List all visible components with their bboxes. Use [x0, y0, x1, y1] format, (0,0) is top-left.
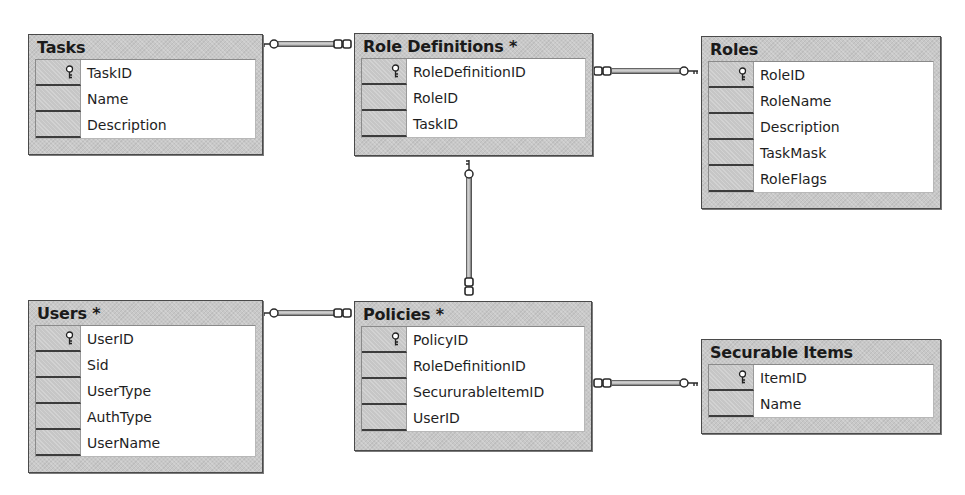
row-selector[interactable]	[709, 88, 754, 114]
column-row[interactable]: UserID	[36, 326, 255, 352]
column-name: ItemID	[754, 365, 933, 391]
column-row[interactable]: Description	[36, 112, 255, 138]
column-name: RoleID	[754, 62, 933, 88]
table-role-definitions[interactable]: Role Definitions * RoleDefinitionID Role…	[354, 33, 593, 156]
row-selector[interactable]	[709, 62, 754, 88]
column-list: ItemID Name	[708, 364, 934, 418]
table-securable-items[interactable]: Securable Items ItemID Name	[701, 339, 941, 434]
column-row[interactable]: TaskMask	[709, 140, 933, 166]
column-name: AuthType	[81, 404, 255, 430]
relationship-tasks-roledefinitions-line[interactable]	[262, 38, 354, 50]
table-title[interactable]: Role Definitions *	[361, 34, 586, 58]
column-row[interactable]: Sid	[36, 352, 255, 378]
table-title[interactable]: Policies *	[361, 302, 585, 326]
row-selector[interactable]	[709, 114, 754, 140]
relationship-users-policies-line[interactable]	[262, 307, 354, 319]
column-row[interactable]: RoleID	[362, 85, 585, 111]
row-selector[interactable]	[709, 365, 754, 391]
column-name: TaskMask	[754, 140, 933, 166]
column-row[interactable]: Name	[36, 86, 255, 112]
column-row[interactable]: PolicyID	[362, 327, 584, 353]
column-name: Name	[754, 391, 933, 417]
row-selector[interactable]	[36, 352, 81, 378]
column-row[interactable]: AuthType	[36, 404, 255, 430]
column-row[interactable]: UserName	[36, 430, 255, 456]
column-row[interactable]: RoleName	[709, 88, 933, 114]
column-name: SecururableItemID	[407, 379, 584, 405]
row-selector[interactable]	[362, 327, 407, 353]
column-row[interactable]: TaskID	[36, 60, 255, 86]
row-selector[interactable]	[362, 353, 407, 379]
column-row[interactable]: SecururableItemID	[362, 379, 584, 405]
column-name: TaskID	[407, 111, 585, 137]
table-tasks[interactable]: Tasks TaskID Name Description	[28, 34, 263, 155]
row-selector[interactable]	[362, 59, 407, 85]
primary-key-icon	[65, 65, 74, 80]
primary-key-icon	[738, 67, 747, 82]
row-selector[interactable]	[36, 60, 81, 86]
column-row[interactable]: RoleDefinitionID	[362, 353, 584, 379]
row-selector[interactable]	[36, 112, 81, 138]
column-row[interactable]: RoleDefinitionID	[362, 59, 585, 85]
column-name: Sid	[81, 352, 255, 378]
row-selector[interactable]	[36, 378, 81, 404]
table-title[interactable]: Users *	[35, 301, 256, 325]
column-list: TaskID Name Description	[35, 59, 256, 139]
column-name: UserID	[407, 405, 584, 431]
row-selector[interactable]	[36, 404, 81, 430]
column-row[interactable]: UserID	[362, 405, 584, 431]
relationship-roledefinitions-roles-line[interactable]	[592, 65, 702, 77]
column-name: RoleName	[754, 88, 933, 114]
column-name: RoleID	[407, 85, 585, 111]
column-row[interactable]: Description	[709, 114, 933, 140]
row-selector[interactable]	[362, 405, 407, 431]
diagram-canvas: Tasks TaskID Name Description Role Defi	[0, 0, 965, 495]
column-list: UserID Sid UserType AuthType UserName	[35, 325, 256, 457]
row-selector[interactable]	[709, 391, 754, 417]
column-list: PolicyID RoleDefinitionID SecururableIte…	[361, 326, 585, 432]
column-list: RoleID RoleName Description TaskMask Rol…	[708, 61, 934, 193]
column-row[interactable]: Name	[709, 391, 933, 417]
column-name: PolicyID	[407, 327, 584, 353]
column-name: UserName	[81, 430, 255, 456]
column-row[interactable]: RoleID	[709, 62, 933, 88]
primary-key-icon	[738, 370, 747, 385]
column-row[interactable]: ItemID	[709, 365, 933, 391]
row-selector[interactable]	[709, 166, 754, 192]
table-users[interactable]: Users * UserID Sid UserType AuthTy	[28, 300, 263, 473]
table-title[interactable]: Roles	[708, 37, 934, 61]
column-name: RoleDefinitionID	[407, 353, 584, 379]
primary-key-icon	[65, 331, 74, 346]
column-name: Description	[81, 112, 255, 138]
column-row[interactable]: RoleFlags	[709, 166, 933, 192]
table-title[interactable]: Securable Items	[708, 340, 934, 364]
table-policies[interactable]: Policies * PolicyID RoleDefinitionID Sec…	[354, 301, 592, 451]
table-title[interactable]: Tasks	[35, 35, 256, 59]
column-name: RoleDefinitionID	[407, 59, 585, 85]
row-selector[interactable]	[36, 86, 81, 112]
table-roles[interactable]: Roles RoleID RoleName Description	[701, 36, 941, 209]
row-selector[interactable]	[709, 140, 754, 166]
column-name: Name	[81, 86, 255, 112]
column-name: Description	[754, 114, 933, 140]
column-name: UserID	[81, 326, 255, 352]
row-selector[interactable]	[36, 326, 81, 352]
column-list: RoleDefinitionID RoleID TaskID	[361, 58, 586, 138]
row-selector[interactable]	[362, 111, 407, 137]
column-row[interactable]: TaskID	[362, 111, 585, 137]
relationship-roledefinitions-policies-line[interactable]	[463, 155, 475, 300]
primary-key-icon	[391, 64, 400, 79]
row-selector[interactable]	[362, 379, 407, 405]
row-selector[interactable]	[362, 85, 407, 111]
relationship-policies-securableitems-line[interactable]	[592, 377, 702, 389]
column-name: RoleFlags	[754, 166, 933, 192]
column-name: TaskID	[81, 60, 255, 86]
column-name: UserType	[81, 378, 255, 404]
column-row[interactable]: UserType	[36, 378, 255, 404]
primary-key-icon	[391, 332, 400, 347]
row-selector[interactable]	[36, 430, 81, 456]
